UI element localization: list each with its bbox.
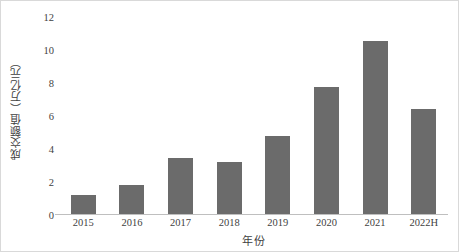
bar-slot [302, 11, 351, 214]
x-axis-tick-label: 2017 [156, 217, 205, 233]
x-axis-tick-label: 2020 [302, 217, 351, 233]
y-axis-tick-label: 12 [44, 12, 55, 23]
bar-2017 [168, 158, 193, 214]
x-axis-tick-label: 2018 [205, 217, 254, 233]
bar-slot [254, 11, 303, 214]
bar-series [59, 11, 448, 214]
y-axis-tick-label: 2 [49, 177, 54, 188]
y-axis-tick-label: 8 [49, 78, 54, 89]
bar-2018 [217, 162, 242, 214]
bar-2016 [119, 185, 144, 214]
bar-2020 [314, 87, 339, 214]
bar-2022H [411, 109, 436, 214]
y-axis-tick-label: 10 [44, 45, 55, 56]
bar-slot [108, 11, 157, 214]
bar-slot [59, 11, 108, 214]
x-axis-tick-label: 2016 [108, 217, 157, 233]
y-axis-title: 成交额值（万亿元） [1, 1, 31, 215]
x-axis-title: 年份 [59, 232, 448, 248]
x-axis-tick-label: 2022H [399, 217, 448, 233]
y-axis-tick-label: 6 [49, 111, 54, 122]
y-axis-title-text: 成交额值（万亿元） [8, 56, 24, 160]
bar-slot [399, 11, 448, 214]
bar-2021 [363, 41, 388, 214]
bar-slot [156, 11, 205, 214]
y-axis-tick-labels: 0 2 4 6 8 10 12 [31, 1, 58, 252]
bar-slot [351, 11, 400, 214]
x-axis-line [55, 214, 448, 215]
x-axis-tick-label: 2015 [59, 217, 108, 233]
bar-slot [205, 11, 254, 214]
bar-2015 [71, 195, 96, 214]
bar-2019 [265, 136, 290, 214]
y-axis-tick-label: 4 [49, 144, 54, 155]
x-axis-tick-label: 2021 [351, 217, 400, 233]
x-axis-tick-label: 2019 [254, 217, 303, 233]
plot-area [59, 11, 448, 215]
x-axis-tick-labels: 2015 2016 2017 2018 2019 2020 2021 2022H [59, 217, 448, 233]
chart-container: 成交额值（万亿元） 0 2 4 6 8 10 12 2015 2016 2017… [0, 0, 459, 252]
y-axis-tick-label: 0 [49, 210, 54, 221]
